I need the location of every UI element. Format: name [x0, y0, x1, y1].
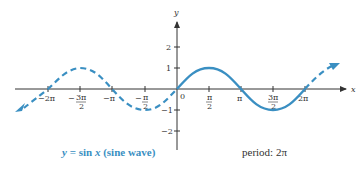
- y-axis-label: y: [173, 8, 179, 17]
- svg-text:3π: 3π: [76, 93, 86, 102]
- period-caption: period: 2π: [242, 146, 287, 158]
- svg-text:1: 1: [166, 64, 171, 73]
- x-axis-label: x: [351, 85, 356, 94]
- x-tick-labels: −2π − 3π 2 −π − π 2 0 π 2 π 3π 2 2π: [38, 92, 308, 111]
- svg-text:−: −: [135, 94, 142, 103]
- equation-caption: y = sin x (sine wave): [62, 146, 155, 158]
- svg-text:−1: −1: [161, 106, 173, 115]
- x-label-3pi-2: 3π 2: [268, 93, 278, 111]
- left-arrow-icon: [15, 103, 25, 112]
- svg-text:π: π: [207, 93, 212, 102]
- sine-curve-dashed-right: [305, 66, 332, 89]
- svg-text:−2: −2: [161, 127, 173, 136]
- x-label-pi: π: [237, 94, 242, 103]
- origin-label: 0: [180, 92, 185, 101]
- svg-text:2: 2: [79, 102, 84, 111]
- svg-text:3π: 3π: [268, 93, 278, 102]
- svg-text:π: π: [143, 93, 148, 102]
- svg-text:2: 2: [207, 102, 212, 111]
- sine-chart: −2π − 3π 2 −π − π 2 0 π 2 π 3π 2 2π 2: [0, 0, 358, 171]
- x-label-neg-3pi-2: − 3π 2: [68, 93, 86, 111]
- x-label-neg-pi: −π: [103, 94, 115, 103]
- svg-text:−: −: [68, 94, 75, 103]
- x-label-pi-2: π 2: [206, 93, 212, 111]
- svg-text:2: 2: [166, 43, 171, 52]
